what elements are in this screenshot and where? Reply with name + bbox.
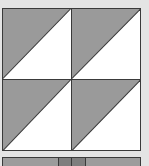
- half-square-triangle-icon: [3, 80, 71, 151]
- quilt-block-grid: [2, 8, 141, 151]
- hst-cell-r0-c1: [72, 9, 141, 80]
- bottom-fabric-strip: [2, 157, 141, 166]
- hst-cell-r1-c1: [72, 80, 141, 151]
- strip-segment-left: [3, 158, 58, 166]
- strip-segment-center-left: [58, 158, 72, 166]
- half-square-triangle-icon: [72, 80, 141, 151]
- half-square-triangle-icon: [3, 9, 71, 79]
- half-square-triangle-icon: [72, 9, 141, 79]
- strip-segment-center-right: [71, 158, 85, 166]
- hst-cell-r1-c0: [3, 80, 72, 151]
- hst-cell-r0-c0: [3, 9, 72, 80]
- strip-segment-right: [85, 158, 140, 166]
